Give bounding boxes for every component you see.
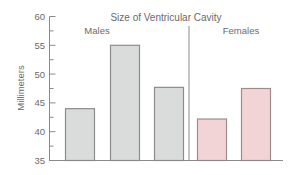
bars (66, 45, 271, 160)
bar-chart: Size of Ventricular Cavity Millimeters 3… (0, 0, 293, 175)
y-tick-label: 50 (34, 69, 45, 80)
y-tick-label: 35 (34, 155, 45, 166)
y-tick-label: 40 (34, 126, 45, 137)
group-label-males: Males (84, 25, 110, 36)
female-bar (198, 119, 227, 160)
group-label-females: Females (223, 25, 260, 36)
y-axis: 354045505560 (34, 11, 55, 166)
male-bar (66, 109, 95, 161)
male-bar (111, 45, 140, 160)
y-axis-label: Millimeters (15, 65, 26, 111)
y-tick-label: 55 (34, 40, 45, 51)
y-tick-label: 60 (34, 11, 45, 22)
chart-title: Size of Ventricular Cavity (110, 12, 221, 23)
male-bar (155, 87, 184, 160)
female-bar (242, 89, 271, 161)
y-tick-label: 45 (34, 97, 45, 108)
